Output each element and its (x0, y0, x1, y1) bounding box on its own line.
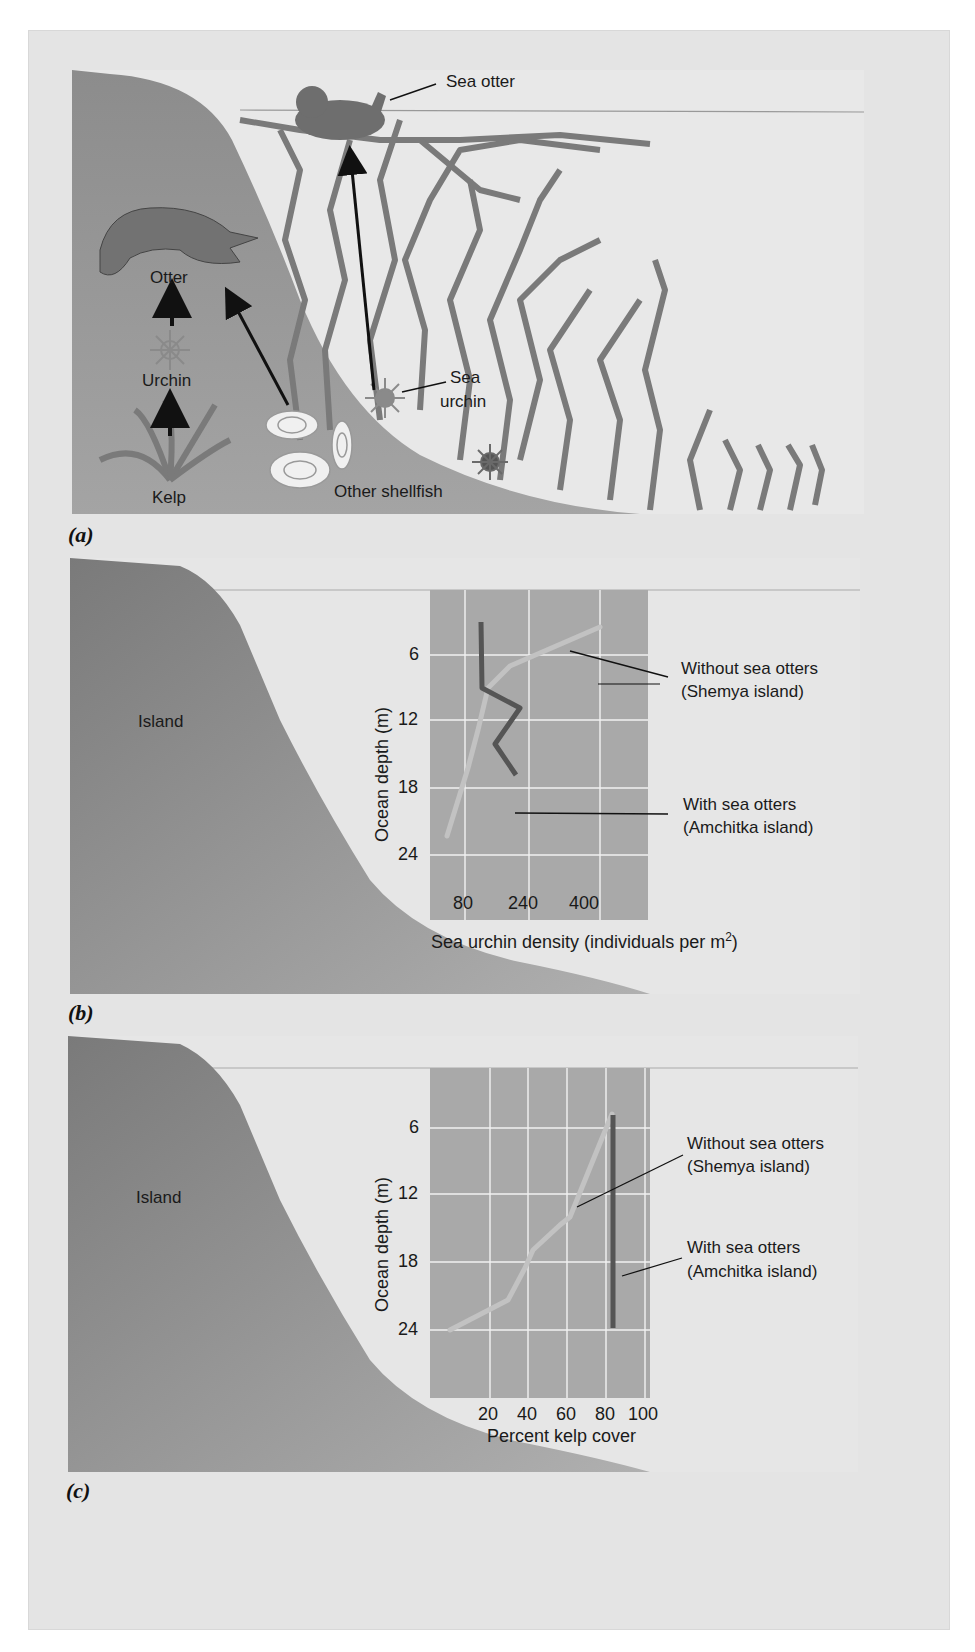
chart-c-ytick: 18 (398, 1251, 418, 1272)
panel-c-illustration (0, 0, 975, 1520)
chart-c-ytick: 12 (398, 1183, 418, 1204)
chart-c-xlabel: Percent kelp cover (487, 1426, 636, 1447)
chart-c-xtick: 20 (478, 1404, 498, 1425)
legend-c-with-line2: (Amchitka island) (687, 1262, 817, 1282)
chart-c-plot-area (430, 1068, 650, 1398)
chart-c-ytick: 6 (409, 1117, 419, 1138)
chart-c-xtick: 60 (556, 1404, 576, 1425)
chart-c-xtick: 40 (517, 1404, 537, 1425)
chart-c-xtick: 100 (628, 1404, 658, 1425)
chart-c-ylabel: Ocean depth (m) (372, 1177, 393, 1312)
chart-c-ytick: 24 (398, 1319, 418, 1340)
legend-c-with-line1: With sea otters (687, 1238, 800, 1258)
panel-c-kelp-cover: Island Ocean depth (m) 6 12 18 24 20 40 … (0, 0, 975, 1520)
panel-letter-c: (c) (66, 1478, 90, 1504)
chart-c-xtick: 80 (595, 1404, 615, 1425)
legend-c-without-line1: Without sea otters (687, 1134, 824, 1154)
island-label-c: Island (136, 1188, 181, 1208)
legend-c-without-line2: (Shemya island) (687, 1157, 810, 1177)
